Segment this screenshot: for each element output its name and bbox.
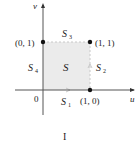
uv-plane-diagram: v u 0 (0, 1) (1, 1) (1, 0) S S 3 S 4 S 2…: [0, 0, 139, 142]
svg-text:S: S: [61, 96, 66, 107]
svg-text:S: S: [28, 62, 33, 73]
point-1-1: [88, 40, 92, 44]
point-label-0-1: (0, 1): [15, 38, 35, 48]
edge-label-s1: S 1: [61, 96, 71, 108]
u-axis-arrow-icon: [130, 88, 135, 92]
v-axis-arrow-icon: [41, 3, 45, 8]
v-axis-label: v: [33, 1, 37, 11]
origin-label: 0: [34, 94, 39, 104]
svg-text:1: 1: [68, 102, 71, 108]
svg-text:S: S: [62, 28, 67, 39]
svg-text:4: 4: [35, 68, 38, 74]
edge-label-s2: S 2: [96, 62, 106, 74]
svg-text:3: 3: [69, 34, 72, 40]
edge-label-s4: S 4: [28, 62, 38, 74]
u-axis-label: u: [130, 94, 135, 104]
svg-text:2: 2: [103, 68, 106, 74]
point-1-0: [88, 88, 92, 92]
edge-label-s3: S 3: [62, 28, 72, 40]
svg-text:S: S: [96, 62, 101, 73]
point-0-1: [41, 40, 45, 44]
region-label: S: [63, 61, 69, 73]
point-label-1-1: (1, 1): [95, 38, 115, 48]
point-label-1-0: (1, 0): [80, 96, 100, 106]
panel-label: I: [63, 131, 66, 142]
